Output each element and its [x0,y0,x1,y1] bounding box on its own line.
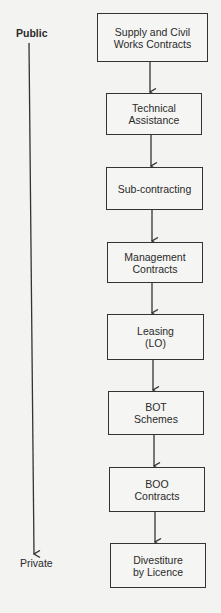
box-leasing: Leasing (LO) [107,314,204,360]
box-divestiture-by-licence: Divestiture by Licence [110,543,206,588]
box-sub-contracting: Sub-contracting [106,167,203,210]
box-boo-contracts: BOO Contracts [109,467,205,512]
public-label: Public [16,27,48,39]
box-technical-assistance: Technical Assistance [106,93,202,135]
box-supply-civil-works: Supply and Civil Works Contracts [97,13,208,62]
box-management-contracts: Management Contracts [107,242,203,283]
public-private-axis-arrow [29,43,34,554]
connectors-layer [0,0,221,613]
box-bot-schemes: BOT Schemes [108,391,204,435]
private-label: Private [20,557,53,569]
